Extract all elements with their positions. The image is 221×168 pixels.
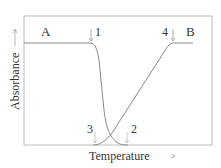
- marker-4: 4: [162, 25, 175, 41]
- marker-1: 1: [89, 25, 101, 41]
- y-axis-arrow-icon: [13, 29, 17, 46]
- svg-text:4: 4: [162, 25, 168, 39]
- svg-text:1: 1: [95, 25, 101, 39]
- melting-curve-diagram: A B 1 4 3 2 Temperature > Absorbance: [0, 0, 221, 168]
- marker-3: 3: [87, 122, 97, 143]
- state-label-a: A: [41, 24, 51, 39]
- plot-frame: [24, 16, 212, 145]
- y-axis-label: Absorbance: [8, 53, 22, 110]
- curve-a-decline: [24, 43, 128, 145]
- svg-text:3: 3: [87, 122, 93, 136]
- state-label-b: B: [186, 24, 195, 39]
- marker-2: 2: [125, 122, 137, 143]
- svg-text:2: 2: [131, 122, 137, 136]
- x-axis-arrow-icon: >: [171, 152, 176, 161]
- x-axis-label: Temperature: [89, 149, 149, 163]
